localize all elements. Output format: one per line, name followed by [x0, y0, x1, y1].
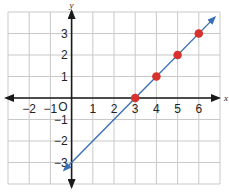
x-tick-label: 5	[174, 102, 181, 116]
x-tick-label: −2	[22, 102, 36, 116]
coordinate-plane: xy −2−1123456321−1−2−3O	[0, 0, 229, 193]
x-axis-label: x	[223, 93, 228, 103]
x-tick-label: 4	[153, 102, 160, 116]
y-axis-label: y	[69, 0, 74, 10]
x-tick-label: 1	[89, 102, 96, 116]
y-tick-label: 2	[61, 48, 68, 62]
origin-label: O	[58, 100, 67, 114]
y-tick-label: −1	[54, 113, 68, 127]
data-point	[152, 72, 161, 81]
x-tick-label: 2	[111, 102, 118, 116]
data-point	[195, 29, 204, 38]
data-point	[173, 51, 182, 60]
x-tick-label: 6	[195, 102, 202, 116]
y-tick-label: 1	[61, 70, 68, 84]
y-tick-label: 3	[61, 27, 68, 41]
axes: xy	[6, 0, 228, 187]
y-tick-label: −2	[54, 134, 68, 148]
x-tick-label: 3	[132, 102, 139, 116]
graph-line	[64, 17, 215, 170]
line-arrow-down	[64, 98, 135, 170]
data-point	[131, 94, 140, 103]
